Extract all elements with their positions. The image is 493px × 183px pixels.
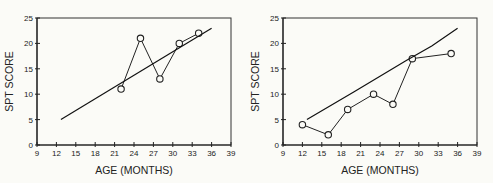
x-axis-label: AGE (MONTHS) bbox=[341, 164, 419, 176]
y-tick-label: 15 bbox=[24, 65, 33, 74]
x-tick-label: 18 bbox=[91, 149, 100, 158]
y-tick-label: 0 bbox=[275, 141, 280, 150]
data-point-marker bbox=[299, 121, 305, 127]
trend-line bbox=[61, 28, 212, 119]
y-tick-label: 15 bbox=[270, 65, 279, 74]
x-tick-label: 36 bbox=[207, 149, 216, 158]
chart-2: 9121518212427303336390510152025AGE (MONT… bbox=[249, 14, 482, 176]
y-tick-label: 5 bbox=[29, 116, 34, 125]
x-tick-label: 33 bbox=[188, 149, 197, 158]
trend-line bbox=[307, 28, 458, 119]
x-tick-label: 15 bbox=[71, 149, 80, 158]
y-tick-label: 10 bbox=[24, 90, 33, 99]
y-axis-label: SPT SCORE bbox=[3, 51, 15, 112]
data-point-marker bbox=[344, 106, 350, 112]
plot-frame bbox=[283, 18, 477, 145]
x-tick-label: 9 bbox=[35, 149, 40, 158]
x-axis-label: AGE (MONTHS) bbox=[95, 164, 173, 176]
x-tick-label: 27 bbox=[395, 149, 404, 158]
y-tick-label: 5 bbox=[275, 116, 280, 125]
x-tick-label: 30 bbox=[414, 149, 423, 158]
data-point-marker bbox=[448, 50, 454, 56]
y-tick-label: 25 bbox=[24, 14, 33, 23]
x-tick-label: 12 bbox=[298, 149, 307, 158]
x-tick-label: 39 bbox=[473, 149, 482, 158]
y-tick-label: 20 bbox=[24, 39, 33, 48]
x-tick-label: 27 bbox=[149, 149, 158, 158]
x-tick-label: 21 bbox=[110, 149, 119, 158]
x-tick-label: 9 bbox=[281, 149, 286, 158]
x-tick-label: 18 bbox=[337, 149, 346, 158]
x-tick-label: 36 bbox=[453, 149, 462, 158]
data-point-marker bbox=[325, 132, 331, 138]
x-tick-label: 33 bbox=[434, 149, 443, 158]
y-tick-label: 20 bbox=[270, 39, 279, 48]
x-tick-label: 39 bbox=[227, 149, 236, 158]
data-point-marker bbox=[157, 76, 163, 82]
charts-canvas: 9121518212427303336390510152025AGE (MONT… bbox=[0, 0, 493, 183]
x-tick-label: 24 bbox=[130, 149, 139, 158]
y-tick-label: 25 bbox=[270, 14, 279, 23]
x-tick-label: 30 bbox=[168, 149, 177, 158]
x-tick-label: 12 bbox=[52, 149, 61, 158]
data-point-marker bbox=[118, 86, 124, 92]
data-point-marker bbox=[390, 101, 396, 107]
chart-1: 9121518212427303336390510152025AGE (MONT… bbox=[3, 14, 236, 176]
x-tick-label: 24 bbox=[376, 149, 385, 158]
plot-frame bbox=[37, 18, 231, 145]
y-tick-label: 0 bbox=[29, 141, 34, 150]
y-axis-label: SPT SCORE bbox=[249, 51, 261, 112]
y-tick-label: 10 bbox=[270, 90, 279, 99]
data-point-marker bbox=[137, 35, 143, 41]
data-point-marker bbox=[176, 40, 182, 46]
x-tick-label: 21 bbox=[356, 149, 365, 158]
x-tick-label: 15 bbox=[317, 149, 326, 158]
data-point-marker bbox=[370, 91, 376, 97]
